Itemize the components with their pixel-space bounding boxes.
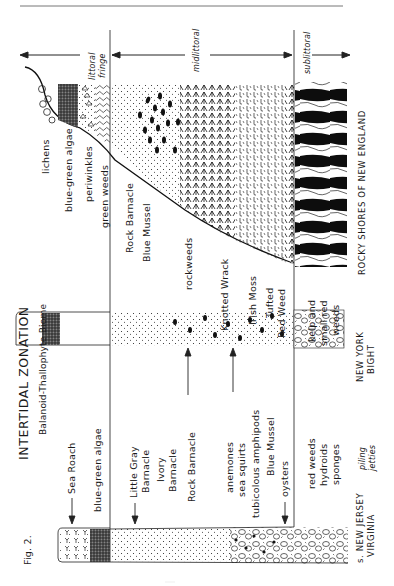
figure-title: INTERTIDAL ZONATION xyxy=(18,306,29,460)
label-knotted-wrack: Knotted Wrack xyxy=(219,259,230,331)
label-kelp-1: kelp and xyxy=(306,300,317,342)
label-sea-roach: Sea Roach xyxy=(66,442,77,494)
label-lichens: lichens xyxy=(40,139,51,174)
label-hydroids: hydroids xyxy=(318,444,329,486)
label-tufted-2: Red Weed xyxy=(276,289,287,338)
zone-label-sublittoral: sublittoral xyxy=(303,31,312,74)
label-red-weeds: red weeds xyxy=(306,438,317,489)
label-little-gray-2: Barnacle xyxy=(140,450,151,493)
label-rockweeds: rockweeds xyxy=(183,238,194,290)
zone-arrows xyxy=(20,52,350,58)
label-irish-moss: Irish Moss xyxy=(247,276,258,325)
label-nj-blue-mussel: Blue Mussel xyxy=(265,417,276,476)
piling-new-jersey-virginia xyxy=(58,527,348,565)
zone-label-midlittoral: midlittoral xyxy=(192,29,201,72)
label-amphipods: tubicolous amphipods xyxy=(250,410,261,518)
label-ivory-2: Barnacle xyxy=(167,449,178,492)
zonation-figure xyxy=(0,0,394,586)
label-sea-squirts: sea squirts xyxy=(236,443,247,497)
caption-rocky-shores: ROCKY SHORES OF NEW ENGLAND xyxy=(357,110,368,275)
label-sponges: sponges xyxy=(330,444,341,485)
label-kelp-2: small red xyxy=(318,300,329,346)
label-green-weeds: green weeds xyxy=(99,165,110,228)
label-blue-mussel: Blue Mussel xyxy=(141,203,152,262)
label-jetties: jetties xyxy=(368,445,377,471)
label-kelp-3: weeds xyxy=(330,305,341,336)
label-oysters: oysters xyxy=(279,461,290,497)
label-ivory-1: Ivory xyxy=(155,457,166,482)
caption-ny-bight-1: NEW YORK xyxy=(355,331,366,382)
figure-label: Fig. 2. xyxy=(22,535,33,565)
label-nj-rock-barnacle: Rock Barnacle xyxy=(186,432,197,502)
caption-ny-bight-2: BIGHT xyxy=(366,344,377,374)
caption-nj-1: s. NEW JERSEY xyxy=(355,493,366,563)
figure-subtitle: Balanoid-Thallophyte Biome xyxy=(38,304,49,435)
label-anemones: anemones xyxy=(224,442,235,493)
label-nj-blue-green-algae: blue-green algae xyxy=(92,428,103,512)
label-little-gray-1: Little Gray xyxy=(128,446,139,498)
label-piling: piling xyxy=(358,447,367,470)
zone-label-littoral-fringe-1: littoral xyxy=(88,52,97,80)
label-blue-green-algae: blue-green algae xyxy=(63,128,74,212)
piling-new-york-bight xyxy=(16,310,344,348)
label-periwinkles: periwinkles xyxy=(83,146,94,202)
label-rock-barnacle: Rock Barnacle xyxy=(124,183,135,253)
zone-label-littoral-fringe-2: fringe xyxy=(98,53,107,78)
label-tufted-1: Tufted xyxy=(264,288,275,318)
caption-nj-2: VIRGINIA xyxy=(366,514,377,557)
